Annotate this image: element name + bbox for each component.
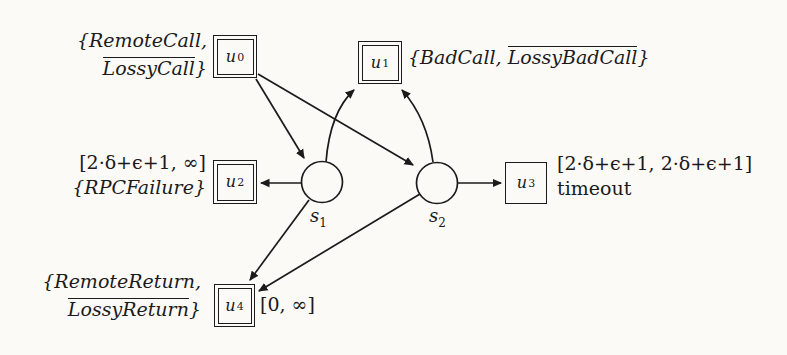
place-s2-label: s2 (429, 207, 446, 225)
overlined-lossybadcall: LossyBadCall (508, 46, 638, 69)
state-u0: u0 (213, 35, 257, 78)
u3-annotation: [2·δ+ϵ+1, 2·δ+ϵ+1] timeout (557, 151, 752, 201)
u4-interval-label: [0, ∞] (260, 290, 315, 318)
u4-events-line1: {RemoteReturn, (42, 267, 201, 295)
place-s2-circle (417, 163, 458, 204)
edge-s2-u1 (402, 90, 433, 162)
state-u3-label: u3 (509, 166, 544, 201)
u3-interval-label: [2·δ+ϵ+1, 2·δ+ϵ+1] (557, 151, 752, 176)
u0-event-set-label: {RemoteCall, LossyCall} (77, 26, 207, 82)
state-u2-label: u2 (217, 164, 254, 201)
state-u1-label: u1 (362, 45, 399, 81)
u4-events-line2: LossyReturn} (42, 295, 201, 323)
s2-subscript: 2 (438, 216, 446, 230)
state-u1: u1 (358, 41, 402, 84)
u2-annotation: [2·δ+ϵ+1, ∞] {RPCFailure} (72, 150, 206, 200)
place-s1-label: s1 (310, 207, 327, 225)
edge-s1-u4 (250, 200, 309, 280)
overlined-lossyreturn: LossyReturn (68, 298, 189, 321)
u0-events-line1: {RemoteCall, (77, 26, 207, 54)
u1-event-set-label: {BadCall, LossyBadCall} (408, 43, 650, 71)
overlined-lossycall: LossyCall (103, 57, 195, 80)
u4-event-set-label: {RemoteReturn, LossyReturn} (42, 267, 201, 323)
edge-s2-u4 (259, 194, 420, 291)
edge-s1-u1 (326, 90, 354, 162)
state-u3: u3 (505, 162, 547, 204)
automaton-diagram: u0 u1 u2 u3 u4 s1 s2 {RemoteCall, LossyC… (0, 0, 787, 355)
state-u4-label: u4 (218, 288, 252, 324)
u0-events-line2: LossyCall} (77, 54, 207, 82)
state-u4: u4 (214, 284, 255, 327)
s1-subscript: 1 (319, 216, 327, 230)
state-u0-label: u0 (217, 39, 254, 75)
edge-u0-s1 (256, 79, 304, 158)
u2-interval-label: [2·δ+ϵ+1, ∞] (72, 150, 206, 175)
state-u2: u2 (213, 160, 257, 204)
u3-timeout-label: timeout (557, 176, 752, 201)
place-s1-circle (302, 162, 343, 203)
u2-event-set-label: {RPCFailure} (72, 175, 206, 200)
